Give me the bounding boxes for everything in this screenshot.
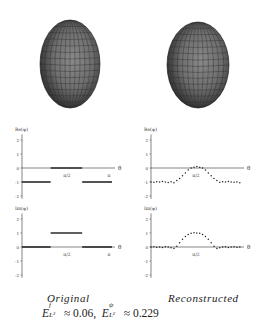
formula-e1-value: ≈ 0.06,	[64, 307, 96, 319]
y-axis-label: Im(ψ)	[144, 206, 157, 211]
data-point	[182, 175, 184, 177]
error-formula: EfL² ≈ 0.06, EψL² ≈ 0.229	[42, 307, 159, 319]
data-point	[213, 246, 215, 248]
data-point	[208, 239, 210, 241]
data-point	[210, 175, 212, 177]
y-tick-label: -2	[144, 194, 148, 199]
formula-e2-sup: ψ	[109, 301, 113, 309]
data-point	[156, 181, 158, 183]
data-point	[202, 234, 204, 236]
formula-e1-sup: f	[49, 301, 51, 309]
data-point	[190, 233, 192, 235]
y-axis-label: Re(ψ)	[15, 127, 28, 132]
data-point	[199, 233, 201, 235]
y-tick-label: 1	[16, 231, 19, 236]
data-point	[170, 247, 172, 249]
x-axis-label: θ	[247, 244, 251, 250]
formula-e1-symbol: E	[42, 307, 49, 319]
data-point	[179, 178, 181, 180]
data-point	[222, 181, 224, 183]
x-tick-label: π	[108, 252, 111, 257]
data-point	[162, 181, 164, 183]
data-point	[205, 236, 207, 238]
data-point	[233, 246, 235, 248]
data-point	[190, 167, 192, 169]
formula-e1-sub: L²	[49, 311, 55, 319]
y-tick-label: 0	[16, 245, 19, 250]
data-point	[153, 246, 155, 248]
data-point	[216, 248, 218, 250]
y-tick-label: -2	[15, 194, 19, 199]
data-point	[165, 246, 167, 248]
y-tick-label: 2	[16, 138, 19, 143]
y-tick-label: -1	[15, 259, 19, 264]
formula-e2-sub: L²	[109, 311, 115, 319]
data-point	[236, 247, 238, 249]
data-point	[159, 181, 161, 183]
data-point	[185, 172, 187, 174]
data-point	[210, 242, 212, 244]
x-tick-label: π	[108, 173, 111, 178]
data-point	[228, 247, 230, 249]
y-axis-label: Re(ψ)	[144, 127, 157, 132]
data-point	[213, 178, 215, 180]
y-tick-label: 0	[145, 245, 148, 250]
data-point	[156, 247, 158, 249]
im-psi-reconstructed-plot: Im(ψ)210-1-2θπ/2	[144, 206, 251, 277]
y-axis-label: Im(ψ)	[15, 206, 28, 211]
formula-e2-symbol: E	[102, 307, 109, 319]
y-tick-label: 2	[145, 138, 148, 143]
data-point	[222, 246, 224, 248]
data-point	[219, 247, 221, 249]
re-psi-reconstructed-plot: Re(ψ)210-1-2θπ/2	[144, 127, 251, 198]
im-psi-original-plot: Im(ψ)210-1-2θπ/2π	[15, 206, 122, 277]
figure-canvas: Re(ψ)210-1-2θπ/2π Re(ψ)210-1-2θπ/2 Im(ψ)…	[0, 0, 257, 335]
caption-original: Original	[47, 292, 90, 304]
data-point	[150, 246, 152, 248]
data-point	[173, 182, 175, 184]
y-tick-label: 0	[145, 166, 148, 171]
data-point	[187, 169, 189, 171]
data-point	[182, 239, 184, 241]
data-point	[176, 246, 178, 248]
data-point	[167, 246, 169, 248]
y-tick-label: 2	[16, 217, 19, 222]
data-point	[196, 232, 198, 234]
data-point	[199, 167, 201, 169]
y-tick-label: -1	[144, 180, 148, 185]
x-axis-label: θ	[118, 244, 122, 250]
data-point	[219, 182, 221, 184]
data-point	[208, 172, 210, 174]
data-point	[239, 246, 241, 248]
data-point	[196, 166, 198, 168]
data-point	[225, 181, 227, 183]
data-point	[236, 181, 238, 183]
data-point	[153, 182, 155, 184]
data-point	[216, 180, 218, 182]
data-point	[173, 248, 175, 250]
caption-reconstructed: Reconstructed	[168, 292, 239, 304]
data-point	[162, 247, 164, 249]
data-point	[150, 181, 152, 183]
data-point	[233, 182, 235, 184]
re-psi-original-plot: Re(ψ)210-1-2θπ/2π	[15, 127, 122, 198]
data-point	[187, 234, 189, 236]
y-tick-label: -1	[144, 259, 148, 264]
data-point	[170, 181, 172, 183]
y-tick-label: -2	[15, 273, 19, 278]
original-spheroid	[40, 20, 100, 108]
x-tick-label: π/2	[192, 173, 199, 178]
x-axis-label: θ	[118, 165, 122, 171]
data-point	[239, 182, 241, 184]
data-point	[205, 169, 207, 171]
data-point	[165, 181, 167, 183]
data-point	[193, 167, 195, 169]
y-tick-label: 2	[145, 217, 148, 222]
x-tick-label: π/2	[63, 252, 70, 257]
y-tick-label: 1	[16, 152, 19, 157]
data-point	[230, 246, 232, 248]
y-tick-label: 1	[145, 231, 148, 236]
y-tick-label: -2	[144, 273, 148, 278]
data-point	[228, 181, 230, 183]
x-axis-label: θ	[247, 165, 251, 171]
